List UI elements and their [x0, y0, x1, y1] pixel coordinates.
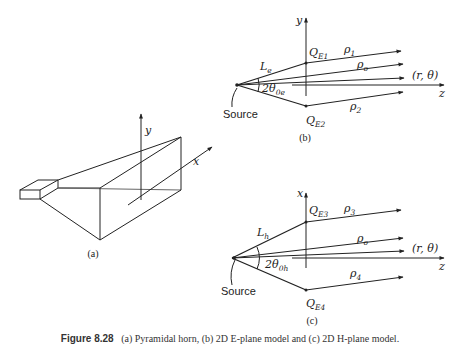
label-rho2: ρ2	[349, 100, 361, 115]
label-qe4: QE4	[306, 297, 326, 312]
angle-arc-b	[258, 78, 259, 92]
source-label-c: Source	[221, 285, 256, 297]
length-label-lh: Lh	[256, 226, 269, 241]
point-qe2	[305, 105, 308, 108]
observation-point-b: (r, θ)	[412, 69, 438, 82]
source-pointer-b	[232, 88, 237, 107]
label-rho1: ρ1	[343, 43, 355, 58]
horn-antenna-figure: y x (a) y z Le 2θ0e QE1 QE2 ρ1 ρo ρ2 (r,…	[0, 0, 460, 344]
point-qe3	[305, 221, 308, 224]
source-point-b	[235, 83, 239, 87]
horn-flare	[40, 137, 181, 240]
label-rho3: ρ3	[343, 202, 355, 217]
panel-a-pyramidal-horn	[20, 114, 212, 240]
x-axis-label-a: x	[193, 155, 200, 168]
length-label-le: Le	[259, 60, 272, 75]
label-rho-o-b: ρo	[356, 58, 368, 73]
y-axis-label-b: y	[295, 14, 303, 27]
x-axis-label-c: x	[297, 187, 304, 200]
label-qe2: QE2	[306, 114, 326, 129]
figure-number: Figure 8.28	[61, 333, 114, 344]
panel-label-b: (b)	[299, 132, 311, 144]
figure-caption-text: (a) Pyramidal horn, (b) 2D E-plane model…	[121, 333, 399, 344]
point-qe4	[305, 289, 308, 292]
z-axis-label-c: z	[438, 260, 445, 273]
angle-arc-c	[257, 247, 259, 269]
source-label-b: Source	[223, 108, 258, 120]
z-axis-label-b: z	[438, 87, 445, 100]
label-qe3: QE3	[309, 204, 329, 219]
label-rho-o-c: ρo	[356, 232, 368, 247]
y-axis-label-a: y	[144, 124, 152, 137]
angle-label-b: 2θ0e	[261, 82, 285, 97]
panel-label-c: (c)	[306, 315, 317, 327]
source-pointer-c	[231, 260, 235, 285]
label-qe1: QE1	[309, 46, 328, 61]
observation-point-c: (r, θ)	[412, 242, 438, 255]
figure-caption: Figure 8.28 (a) Pyramidal horn, (b) 2D E…	[0, 333, 460, 344]
source-point-c	[232, 256, 236, 260]
waveguide	[20, 180, 58, 199]
point-qe1	[305, 62, 308, 65]
label-rho4: ρ4	[349, 267, 361, 282]
angle-label-c: 2θ0h	[264, 258, 288, 273]
panel-label-a: (a)	[87, 248, 98, 260]
